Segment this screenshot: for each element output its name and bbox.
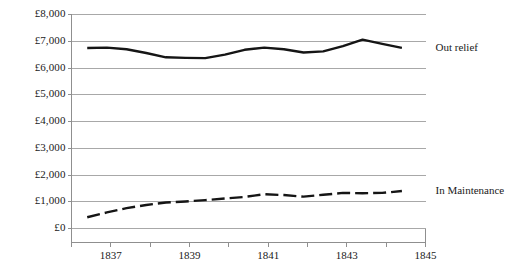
y-axis-tick-label: £6,000 (35, 61, 66, 73)
x-axis-tick-label: 1845 (396, 249, 456, 261)
x-axis-tick-label: 1841 (238, 249, 298, 261)
y-axis-tick-label: £8,000 (35, 7, 66, 19)
series-label-in-maintenance: In Maintenance (436, 184, 505, 196)
series-label-out-relief: Out relief (436, 41, 478, 53)
series-line-in-maintenance (87, 191, 402, 217)
x-tick-marks-group (72, 242, 426, 247)
y-axis-tick-label: £7,000 (35, 34, 66, 46)
x-axis-tick-label: 1837 (81, 249, 141, 261)
series-line-out-relief (87, 40, 402, 58)
chart-container: £8,000£7,000£6,000£5,000£4,000£3,000£2,0… (0, 0, 521, 261)
y-axis-tick-label: £0 (54, 221, 65, 233)
x-axis-tick-label: 1839 (160, 249, 220, 261)
y-axis-tick-label: £5,000 (35, 87, 66, 99)
y-axis-tick-label: £1,000 (35, 194, 66, 206)
y-axis-tick-label: £4,000 (35, 114, 66, 126)
series-paths-group (87, 40, 402, 218)
chart-plot-area (0, 0, 521, 261)
x-axis-tick-label: 1843 (317, 249, 377, 261)
y-axis-tick-label: £3,000 (35, 141, 66, 153)
y-axis-tick-label: £2,000 (35, 168, 66, 180)
